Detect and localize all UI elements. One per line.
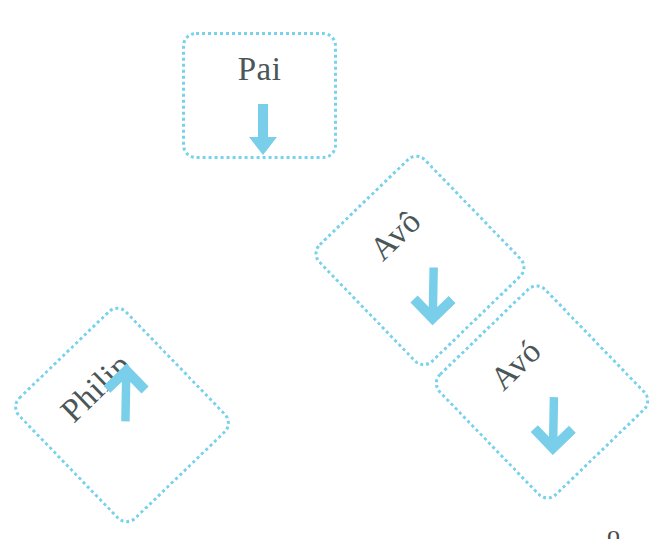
node-pai-label: Pai [185,53,334,86]
arrow-down-icon [245,104,281,156]
node-pai[interactable]: Pai [182,32,337,159]
corner-artifact: ô [607,530,625,539]
arrow-down-left-icon [514,389,585,460]
arrow-down-left-icon [394,259,465,330]
node-philip-content: Philip [13,305,232,524]
node-pai-content: Pai [185,35,334,156]
diagram-canvas: Pai Avô Avó [0,0,671,542]
node-philip[interactable]: Philip [8,301,235,529]
